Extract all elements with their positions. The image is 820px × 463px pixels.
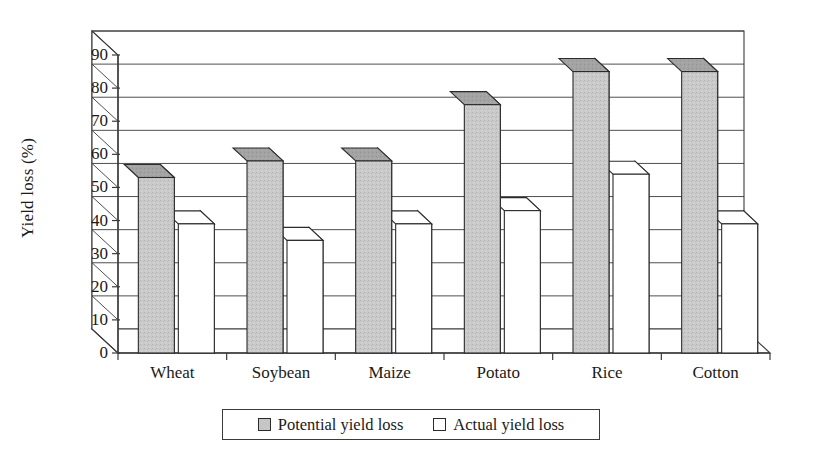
bar-front-face [613,174,649,353]
bar-front-face [682,72,718,353]
bar-front-face [247,161,283,353]
plot-svg [0,0,820,463]
y-axis-tick-label: 50 [66,178,108,195]
legend-label: Potential yield loss [278,415,404,435]
x-axis-category-label-potato: Potato [438,363,558,383]
x-axis-category-label-maize: Maize [330,363,450,383]
bar-front-face [464,105,500,353]
x-axis-category-label-soybean: Soybean [221,363,341,383]
white-swatch-icon [433,418,446,431]
x-axis-category-label-cotton: Cotton [656,363,776,383]
bar-front-face [138,178,174,353]
y-axis-tick-label: 20 [66,278,108,295]
chart-legend: Potential yield lossActual yield loss [222,409,600,440]
y-axis-tick-label: 40 [66,212,108,229]
legend-entry-actual[interactable]: Actual yield loss [433,415,564,435]
bar-front-face [396,224,432,353]
bar-front-face [178,224,214,353]
y-axis-tick-label: 80 [66,79,108,96]
x-axis-category-label-wheat: Wheat [112,363,232,383]
y-axis-tick-label: 30 [66,245,108,262]
y-axis-tick-label: 10 [66,311,108,328]
y-axis-tick-label: 60 [66,145,108,162]
y-axis-tick-label: 70 [66,112,108,129]
bar-front-face [573,72,609,353]
y-axis-tick-label: 0 [66,344,108,361]
bar-front-face [722,224,758,353]
yield-loss-bar-chart: Yield loss (%) [0,0,820,463]
x-axis-category-label-rice: Rice [547,363,667,383]
bar-front-face [287,240,323,353]
plot-area: 0102030405060708090 WheatSoybeanMaizePot… [0,0,820,463]
gray-swatch-icon [258,418,271,431]
legend-label: Actual yield loss [453,415,564,435]
bar-front-face [504,211,540,353]
legend-entry-potential[interactable]: Potential yield loss [258,415,404,435]
y-axis-tick-label: 90 [66,46,108,63]
bar-front-face [356,161,392,353]
